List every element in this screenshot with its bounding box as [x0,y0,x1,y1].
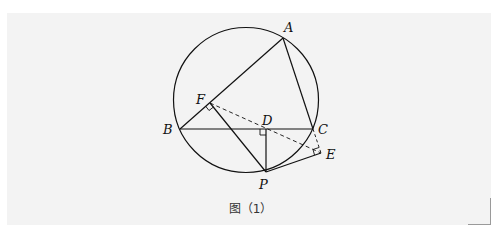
label-f: F [195,92,206,107]
segment-pe [266,153,321,172]
label-a: A [283,20,293,35]
segment-fp [210,103,266,172]
right-angle-mark-d [260,129,266,135]
figure-caption: 图（1） [0,199,501,216]
label-c: C [318,122,328,137]
segment-ac [283,38,313,129]
label-p: P [258,177,268,192]
label-b: B [162,122,173,137]
label-e: E [325,147,336,162]
label-d: D [261,113,273,128]
